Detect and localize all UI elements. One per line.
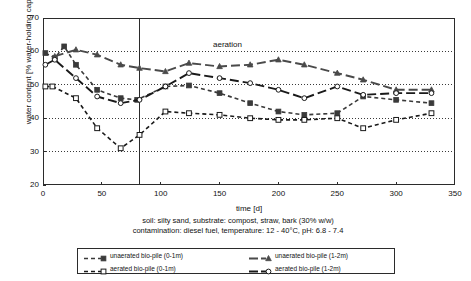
data-point-marker bbox=[43, 84, 48, 89]
data-point-marker bbox=[276, 117, 281, 122]
data-point-marker bbox=[118, 96, 123, 101]
legend-key-open-circle bbox=[247, 266, 275, 277]
chart-legend: unaerated bio-pile (0-1m)aerated bio-pil… bbox=[77, 248, 395, 274]
y-axis-tick-labels: 203040506070 bbox=[15, 18, 39, 185]
caption-line-1: soil: silty sand, substrate: compost, st… bbox=[18, 216, 458, 226]
data-point-marker bbox=[95, 94, 100, 99]
data-point-marker bbox=[118, 101, 123, 106]
x-tick-label-50: 50 bbox=[89, 190, 115, 198]
data-point-marker bbox=[74, 76, 79, 81]
legend-item-label: unaerated bio-pile (1-2m) bbox=[275, 252, 348, 259]
data-point-marker bbox=[74, 96, 79, 101]
data-point-marker bbox=[335, 116, 340, 121]
data-point-marker bbox=[186, 60, 192, 65]
x-axis-tick-labels: 050100150200250300350 bbox=[43, 190, 455, 202]
x-tick-label-0: 0 bbox=[30, 190, 56, 198]
data-point-marker bbox=[429, 111, 434, 116]
data-point-marker bbox=[394, 97, 399, 102]
x-tick-label-250: 250 bbox=[324, 190, 350, 198]
x-tick-label-100: 100 bbox=[148, 190, 174, 198]
y-tick-label-30: 30 bbox=[17, 148, 39, 156]
chart-figure: water content [% water-holding capacity]… bbox=[0, 0, 471, 281]
data-point-marker bbox=[361, 126, 366, 131]
legend-marker-icon bbox=[82, 263, 110, 274]
data-point-marker bbox=[429, 101, 434, 106]
data-point-marker bbox=[52, 57, 57, 62]
data-point-marker bbox=[217, 76, 222, 81]
legend-item[interactable]: aerated bio-pile (0-1m) bbox=[78, 262, 243, 275]
x-tick-label-350: 350 bbox=[442, 190, 468, 198]
data-point-marker bbox=[335, 84, 340, 89]
data-point-marker bbox=[163, 84, 168, 89]
data-point-marker bbox=[394, 117, 399, 122]
legend-column-left: unaerated bio-pile (0-1m)aerated bio-pil… bbox=[78, 249, 243, 273]
data-point-marker bbox=[394, 91, 399, 96]
legend-item-label: aerated bio-pile (1-2m) bbox=[275, 265, 341, 272]
data-point-marker bbox=[101, 256, 106, 261]
legend-item[interactable]: unaerated bio-pile (0-1m) bbox=[78, 249, 243, 262]
legend-marker-icon bbox=[247, 250, 275, 261]
y-tick-label-70: 70 bbox=[17, 14, 39, 22]
y-tick-label-20: 20 bbox=[17, 181, 39, 189]
chart-canvas bbox=[43, 18, 455, 185]
data-point-marker bbox=[137, 133, 142, 138]
legend-item-label: unaerated bio-pile (0-1m) bbox=[110, 252, 183, 259]
data-point-marker bbox=[276, 109, 281, 114]
data-point-marker bbox=[118, 146, 123, 151]
data-point-marker bbox=[302, 117, 307, 122]
x-tick-label-300: 300 bbox=[383, 190, 409, 198]
aeration-annotation-label: aeration bbox=[213, 40, 242, 49]
data-point-marker bbox=[302, 112, 307, 117]
data-point-marker bbox=[248, 81, 253, 86]
data-point-marker bbox=[137, 97, 142, 102]
series-line-2 bbox=[55, 50, 432, 90]
data-point-marker bbox=[217, 112, 222, 117]
data-point-marker bbox=[73, 47, 79, 52]
x-axis-title: time [d] bbox=[43, 204, 455, 213]
data-point-marker bbox=[43, 51, 48, 56]
series-line-1 bbox=[45, 86, 431, 148]
x-tick-label-200: 200 bbox=[265, 190, 291, 198]
data-point-marker bbox=[74, 62, 79, 67]
legend-item[interactable]: aerated bio-pile (1-2m) bbox=[243, 262, 395, 275]
data-point-marker bbox=[248, 116, 253, 121]
legend-marker-icon bbox=[247, 263, 275, 274]
data-point-marker bbox=[187, 83, 192, 88]
plot-area: aeration bbox=[43, 18, 455, 185]
data-point-marker bbox=[50, 84, 55, 89]
legend-column-right: unaerated bio-pile (1-2m)aerated bio-pil… bbox=[243, 249, 395, 273]
y-tick-label-60: 60 bbox=[17, 47, 39, 55]
legend-key-open-square bbox=[82, 266, 110, 277]
data-point-marker bbox=[217, 91, 222, 96]
data-point-marker bbox=[95, 126, 100, 131]
data-point-marker bbox=[276, 87, 281, 92]
data-point-marker bbox=[95, 87, 100, 92]
y-tick-label-50: 50 bbox=[17, 81, 39, 89]
legend-marker-icon bbox=[82, 250, 110, 261]
data-point-marker bbox=[429, 91, 434, 96]
data-point-marker bbox=[335, 111, 340, 116]
y-tick-label-40: 40 bbox=[17, 114, 39, 122]
data-point-marker bbox=[187, 71, 192, 76]
data-point-marker bbox=[361, 92, 366, 97]
caption-line-2: contamination: diesel fuel, temperature:… bbox=[18, 226, 458, 236]
data-point-marker bbox=[266, 269, 271, 274]
data-point-marker bbox=[101, 269, 106, 274]
data-point-marker bbox=[248, 101, 253, 106]
legend-item[interactable]: unaerated bio-pile (1-2m) bbox=[243, 249, 395, 262]
data-point-marker bbox=[266, 256, 272, 261]
legend-item-label: aerated bio-pile (0-1m) bbox=[110, 265, 176, 272]
x-tick-label-150: 150 bbox=[207, 190, 233, 198]
figure-caption: soil: silty sand, substrate: compost, st… bbox=[18, 216, 458, 236]
data-point-marker bbox=[187, 111, 192, 116]
data-point-marker bbox=[163, 109, 168, 114]
data-point-marker bbox=[302, 96, 307, 101]
data-point-marker bbox=[62, 44, 67, 49]
data-point-marker bbox=[43, 62, 48, 67]
